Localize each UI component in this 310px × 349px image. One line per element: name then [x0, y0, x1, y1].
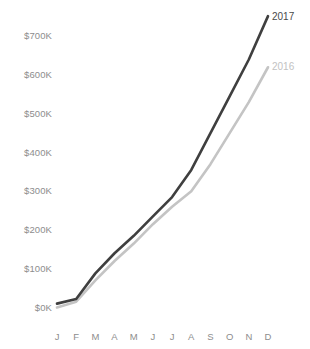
y-tick-label: $600K	[24, 70, 52, 80]
x-tick-label: N	[243, 332, 255, 342]
series-line-2016	[57, 67, 268, 307]
y-tick-label: $100K	[24, 264, 52, 274]
line-chart: $700K$600K$500K$400K$300K$200K$100K$0K J…	[0, 0, 310, 349]
y-tick-label: $300K	[24, 186, 52, 196]
x-tick-label: O	[224, 332, 236, 342]
x-tick-label: A	[185, 332, 197, 342]
x-tick-label: J	[166, 332, 178, 342]
series-end-label-2016: 2016	[272, 62, 294, 72]
series-line-2017	[57, 16, 268, 304]
x-tick-label: D	[262, 332, 274, 342]
x-tick-label: J	[51, 332, 63, 342]
x-tick-label: F	[70, 332, 82, 342]
x-tick-label: J	[147, 332, 159, 342]
y-tick-label: $700K	[24, 31, 52, 41]
x-tick-label: S	[204, 332, 216, 342]
x-tick-label: A	[109, 332, 121, 342]
series-end-label-2017: 2017	[272, 12, 294, 22]
y-tick-label: $0K	[35, 303, 52, 313]
chart-plot-area	[0, 0, 310, 349]
y-tick-label: $500K	[24, 109, 52, 119]
x-tick-label: M	[128, 332, 140, 342]
y-tick-label: $200K	[24, 225, 52, 235]
y-tick-label: $400K	[24, 148, 52, 158]
x-tick-label: M	[89, 332, 101, 342]
